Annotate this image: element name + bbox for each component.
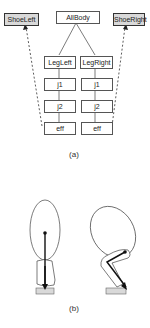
node-shoe-left: ShoeLeft — [4, 13, 39, 26]
node-eff-left: eff — [44, 122, 76, 135]
node-leg-left: LegLeft — [44, 56, 76, 69]
caption-a: (a) — [64, 150, 84, 159]
caption-b: (b) — [64, 304, 84, 313]
node-j2-right: j2 — [81, 100, 113, 113]
node-shoe-right: ShoeRight — [113, 13, 145, 26]
node-eff-right: eff — [81, 122, 113, 135]
node-j1-right: j1 — [81, 78, 113, 91]
node-j2-left: j2 — [44, 100, 76, 113]
diagram-lines — [0, 0, 150, 328]
node-j1-left: j1 — [44, 78, 76, 91]
node-all-body: AllBody — [56, 11, 100, 24]
node-leg-right: LegRight — [80, 56, 113, 69]
